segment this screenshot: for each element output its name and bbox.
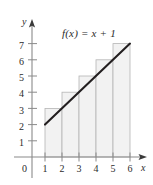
riemann-rectangle	[113, 44, 130, 157]
x-axis-label: x	[141, 163, 145, 173]
function-graph-figure: 1 2 3 4 5 6 7 1 2 3 4 5 6 0 y x f(x) = x…	[0, 0, 153, 185]
y-tick-label-4: 4	[12, 89, 24, 99]
x-tick-label-6: 6	[124, 164, 136, 174]
y-tick-label-5: 5	[12, 73, 24, 83]
x-tick-label-2: 2	[56, 164, 68, 174]
y-tick-label-7: 7	[12, 41, 24, 51]
x-tick-label-3: 3	[73, 164, 85, 174]
y-axis-label: y	[22, 17, 26, 27]
y-tick-label-6: 6	[12, 57, 24, 67]
y-tick-label-3: 3	[12, 106, 24, 116]
y-tick-label-2: 2	[12, 122, 24, 132]
function-formula-label: f(x) = x + 1	[62, 28, 116, 39]
origin-label: 0	[22, 164, 27, 174]
riemann-rectangles	[45, 44, 130, 157]
x-tick-label-5: 5	[107, 164, 119, 174]
x-tick-label-4: 4	[90, 164, 102, 174]
x-tick-label-1: 1	[39, 164, 51, 174]
y-axis	[29, 19, 35, 178]
riemann-rectangle	[62, 92, 79, 157]
riemann-rectangle	[79, 76, 96, 157]
y-tick-label-1: 1	[12, 138, 24, 148]
